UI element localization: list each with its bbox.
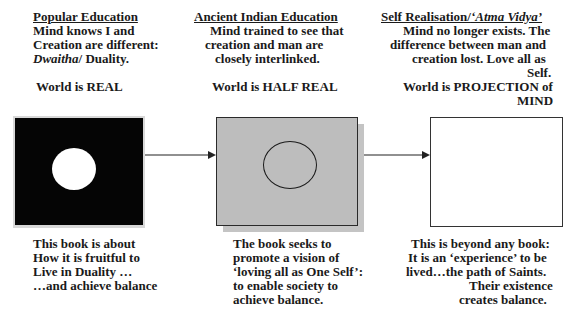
col1-caption-line4: …and achieve balance	[33, 279, 157, 294]
col3-caption-line5: creates balance.	[459, 293, 547, 308]
arrow-2-icon	[364, 151, 430, 159]
arrow-1-icon	[145, 151, 216, 159]
col2-caption-line5: achieve balance.	[233, 293, 323, 308]
